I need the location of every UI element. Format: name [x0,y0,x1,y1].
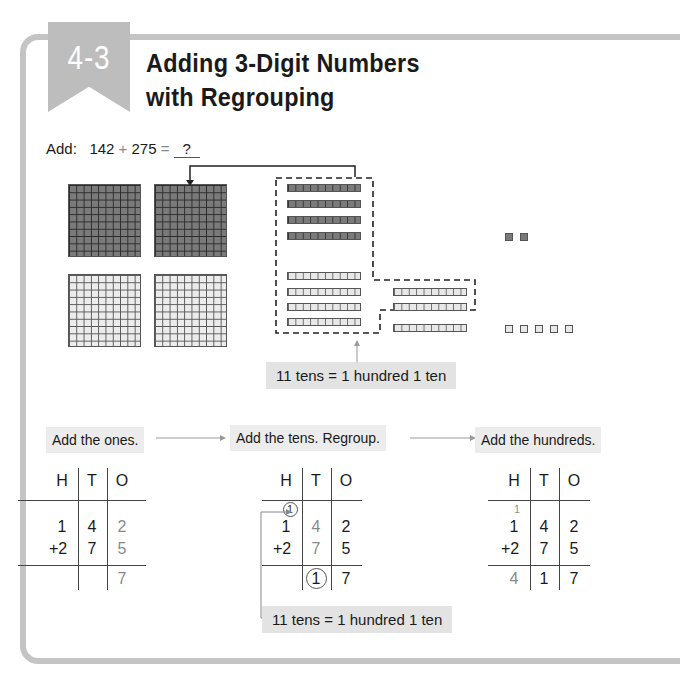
header-t: T [302,472,330,490]
step-1-label: Add the ones. [46,427,144,453]
divider [18,500,146,501]
ten-rod-light [393,288,467,296]
hundred-flat-light [154,274,227,347]
one-cube-light [535,325,543,333]
header-h: H [48,472,76,490]
up-arrow-icon [350,338,364,362]
header-t: T [530,472,558,490]
result-cell: 4 [500,570,528,588]
lesson-number: 4-3 [55,38,122,77]
cell: 7 [78,540,106,558]
cell: 1 [500,518,528,536]
answer-blank: ? [174,140,200,158]
one-cube-light [505,325,513,333]
divider [488,565,590,566]
step-arrow-icon [410,432,478,444]
ten-rod-light [287,288,361,296]
divider [530,468,531,590]
one-cube-light [520,325,528,333]
ten-rod-light [287,272,361,280]
divider [107,468,108,590]
regroup-note: 11 tens = 1 hundred 1 ten [262,606,452,633]
divider [18,565,146,566]
one-cube-light [565,325,573,333]
title-line-2: with Regrouping [146,80,420,114]
cell: +2 [496,540,524,558]
hundred-flat-light [68,274,141,347]
page-title: Adding 3-Digit Numbers with Regrouping [146,46,420,114]
step-2-label: Add the tens. Regroup. [230,425,386,451]
result-cell: 1 [530,570,558,588]
addend-1: 142 [89,140,114,157]
problem-statement: Add: 142 + 275 = ? [46,140,200,158]
equals-sign: = [161,140,170,157]
carry-digit: 1 [503,504,531,515]
ten-rod-light [393,303,467,311]
ten-rod-light [287,318,361,326]
ten-rod-dark [287,200,361,208]
header-t: T [78,472,106,490]
cell: 4 [78,518,106,536]
hundred-flat-dark [68,184,141,257]
result-cell: 7 [560,570,588,588]
cell: 2 [108,518,136,536]
step-3-label: Add the hundreds. [475,427,601,453]
hundred-flat-dark-regrouped [154,184,227,257]
header-o: O [332,472,360,490]
problem-prefix: Add: [46,140,77,157]
model-callout: 11 tens = 1 hundred 1 ten [266,362,456,389]
cell: 4 [530,518,558,536]
plus-sign: + [119,140,128,157]
ten-rod-light [287,303,361,311]
title-line-1: Adding 3-Digit Numbers [146,46,420,80]
one-cube-dark [505,233,513,241]
cell: 5 [560,540,588,558]
ten-rod-dark [287,216,361,224]
cell: 2 [560,518,588,536]
divider [488,500,590,501]
header-h: H [272,472,300,490]
divider [559,468,560,590]
cell: 1 [48,518,76,536]
cell: 7 [530,540,558,558]
ten-rod-light-leftover [393,324,467,332]
one-cube-light [550,325,558,333]
step-arrow-icon [156,432,228,444]
header-o: O [560,472,588,490]
header-o: O [108,472,136,490]
ten-rod-dark [287,232,361,240]
one-cube-dark [520,233,528,241]
cell: +2 [44,540,72,558]
addend-2: 275 [132,140,157,157]
result-cell: 7 [108,570,136,588]
header-h: H [500,472,528,490]
ten-rod-dark [287,184,361,192]
divider [78,468,79,590]
cell: 5 [108,540,136,558]
